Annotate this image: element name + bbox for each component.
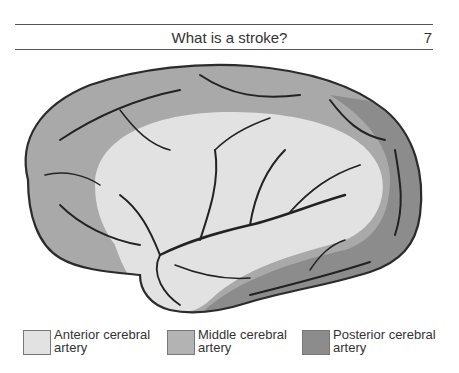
legend: Anterior cerebral artery Middle cerebral… (0, 328, 459, 368)
legend-swatch-anterior (23, 330, 51, 355)
legend-label-middle: Middle cerebral artery (198, 328, 298, 354)
legend-swatch-middle (167, 330, 195, 355)
legend-label-posterior: Posterior cerebral artery (333, 328, 453, 354)
legend-item-posterior: Posterior cerebral artery (302, 328, 453, 355)
legend-label-anterior: Anterior cerebral artery (54, 328, 154, 354)
legend-item-anterior: Anterior cerebral artery (23, 328, 154, 355)
page-number: 7 (424, 29, 432, 46)
brain-illustration (0, 55, 459, 320)
legend-swatch-posterior (302, 330, 330, 355)
header-bottom-rule (15, 49, 433, 50)
header-top-rule (15, 24, 433, 25)
page-header-title: What is a stroke? (0, 29, 459, 46)
legend-item-middle: Middle cerebral artery (167, 328, 298, 355)
brain-diagram (0, 55, 459, 320)
